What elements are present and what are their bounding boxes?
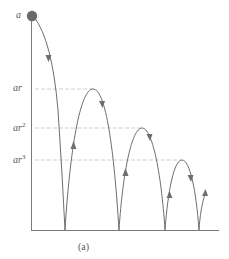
figure-caption: (a)	[78, 242, 89, 252]
bouncing-ball-diagram	[0, 0, 229, 259]
label-ar2-text: ar	[13, 122, 22, 133]
label-ar3-exponent: 3	[22, 153, 26, 161]
label-a: a	[16, 10, 21, 20]
label-a-text: a	[16, 9, 21, 20]
label-ar: ar	[13, 83, 22, 93]
final-rise-curve	[199, 194, 205, 230]
label-ar3: ar3	[13, 154, 25, 165]
bounce-1-curve	[65, 89, 119, 230]
drop-curve	[34, 17, 65, 230]
label-ar2: ar2	[13, 122, 25, 133]
arrow-up-icon	[123, 168, 129, 176]
arrow-up-icon	[71, 141, 77, 149]
bounce-2-curve	[119, 128, 165, 230]
arrow-up-icon	[167, 191, 173, 198]
arrow-up-icon	[202, 189, 208, 196]
label-ar3-text: ar	[13, 154, 22, 165]
ball	[27, 11, 37, 21]
label-ar2-exponent: 2	[22, 121, 26, 129]
label-ar-text: ar	[13, 82, 22, 93]
